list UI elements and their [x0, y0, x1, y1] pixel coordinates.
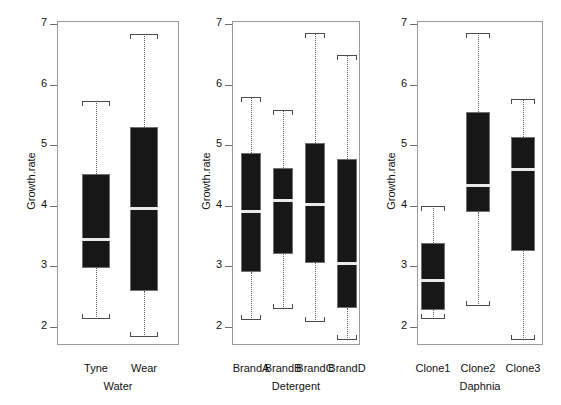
whisker-upper	[283, 110, 284, 168]
whisker-lower	[523, 251, 524, 340]
median-line	[466, 184, 490, 187]
whisker-cap-upper	[273, 110, 293, 115]
box-iqr	[466, 112, 490, 211]
y-axis-tick-mark	[225, 266, 232, 267]
whisker-cap-upper	[82, 101, 110, 106]
whisker-cap-lower	[421, 314, 445, 319]
x-axis-title: Water	[37, 380, 199, 392]
whisker-cap-upper	[305, 33, 325, 38]
y-axis-tick-label: 3	[198, 258, 222, 270]
whisker-cap-upper	[511, 99, 535, 104]
y-axis-tick-mark	[410, 24, 417, 25]
median-line	[511, 168, 535, 171]
y-axis-tick-mark	[50, 266, 57, 267]
x-axis-tick-label-clone3: Clone3	[483, 362, 561, 374]
whisker-cap-upper	[466, 33, 490, 38]
y-axis-tick-label: 6	[23, 77, 47, 89]
whisker-cap-lower	[305, 317, 325, 322]
y-axis-tick-label: 2	[383, 319, 407, 331]
whisker-cap-upper	[421, 206, 445, 211]
median-line	[241, 210, 261, 213]
whisker-lower	[315, 263, 316, 322]
whisker-upper	[251, 97, 252, 153]
whisker-cap-lower	[130, 332, 158, 337]
y-axis-tick-mark	[50, 206, 57, 207]
whisker-cap-lower	[337, 335, 357, 340]
y-axis-tick-label: 3	[383, 258, 407, 270]
x-axis-tick-label-brandd: BrandD	[307, 362, 387, 374]
whisker-lower	[144, 291, 145, 337]
whisker-cap-upper	[130, 34, 158, 39]
y-axis-tick-mark	[50, 85, 57, 86]
y-axis-tick-mark	[225, 327, 232, 328]
median-line	[337, 262, 357, 265]
y-axis-tick-label: 2	[23, 319, 47, 331]
y-axis-tick-mark	[225, 145, 232, 146]
whisker-cap-upper	[241, 97, 261, 102]
whisker-cap-upper	[337, 55, 357, 60]
whisker-cap-lower	[82, 314, 110, 319]
y-axis-tick-label: 3	[23, 258, 47, 270]
box-iqr	[511, 137, 535, 251]
x-axis-title: Detergent	[212, 380, 380, 392]
y-axis-tick-mark	[225, 206, 232, 207]
x-axis-title: Daphnia	[397, 380, 561, 392]
whisker-upper	[315, 33, 316, 143]
y-axis-tick-label: 6	[383, 77, 407, 89]
box-iqr	[337, 159, 357, 308]
y-axis-tick-label: 7	[198, 16, 222, 28]
y-axis-tick-mark	[410, 266, 417, 267]
whisker-upper	[347, 55, 348, 159]
y-axis-tick-mark	[50, 24, 57, 25]
whisker-cap-lower	[241, 315, 261, 320]
y-axis-tick-label: 7	[383, 16, 407, 28]
box-iqr	[421, 243, 445, 310]
box-iqr	[82, 174, 110, 268]
whisker-cap-lower	[466, 301, 490, 306]
whisker-lower	[96, 268, 97, 320]
y-axis-tick-mark	[50, 145, 57, 146]
y-axis-title: Growth.rate	[25, 146, 37, 216]
whisker-upper	[96, 101, 97, 174]
whisker-upper	[144, 34, 145, 127]
y-axis-tick-mark	[410, 327, 417, 328]
y-axis-tick-mark	[50, 327, 57, 328]
whisker-upper	[523, 99, 524, 138]
whisker-upper	[433, 206, 434, 242]
median-line	[421, 279, 445, 282]
y-axis-tick-label: 7	[23, 16, 47, 28]
median-line	[305, 203, 325, 206]
box-iqr	[273, 168, 293, 255]
x-axis-tick-label-wear: Wear	[104, 362, 184, 374]
whisker-lower	[283, 254, 284, 309]
median-line	[130, 207, 158, 210]
whisker-upper	[478, 33, 479, 112]
median-line	[82, 238, 110, 241]
y-axis-tick-label: 6	[198, 77, 222, 89]
y-axis-tick-mark	[410, 145, 417, 146]
y-axis-tick-mark	[410, 85, 417, 86]
median-line	[273, 199, 293, 202]
whisker-lower	[478, 212, 479, 306]
y-axis-title: Growth.rate	[385, 146, 397, 216]
y-axis-title: Growth.rate	[200, 146, 212, 216]
boxplot-figure: 234567Growth.rateTyneWearWater234567Grow…	[0, 0, 561, 405]
whisker-cap-lower	[511, 335, 535, 340]
whisker-cap-lower	[273, 304, 293, 309]
y-axis-tick-mark	[225, 85, 232, 86]
y-axis-tick-mark	[410, 206, 417, 207]
y-axis-tick-label: 2	[198, 319, 222, 331]
y-axis-tick-mark	[225, 24, 232, 25]
plot-frame	[57, 21, 179, 345]
whisker-lower	[251, 272, 252, 320]
